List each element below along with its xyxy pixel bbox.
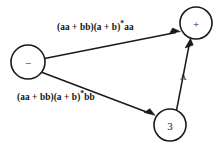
node-minus[interactable]: − [11,45,45,79]
node-minus-label: − [25,57,31,69]
edge-label-minus-to-plus: (aa + bb)(a + b)*aa [57,22,134,32]
edge-label-three-to-plus: Λ [180,72,187,82]
node-plus-label: + [193,18,199,30]
edge-label-minus-to-plus-expr: (aa + bb)(a + b) [57,22,120,32]
edge-label-minus-to-plus-suffix: aa [124,22,134,32]
node-three-label: 3 [167,120,173,132]
edge-minus-to-plus-arrowhead [170,28,181,34]
edge-label-minus-to-three: (aa + bb)(a + b)*bb [17,92,95,102]
edge-three-to-plus-arrowhead [185,39,193,49]
edge-label-minus-to-three-expr: (aa + bb)(a + b) [17,92,80,102]
node-plus[interactable]: + [180,7,212,39]
diagram-canvas: − + 3 (aa + bb)(a + b)*aa (aa + bb)(a + … [0,0,222,147]
edge-minus-to-plus[interactable] [45,28,181,59]
edge-label-minus-to-three-suffix: bb [84,92,95,102]
edge-minus-to-three-arrowhead [144,109,155,116]
node-three[interactable]: 3 [154,109,186,141]
edge-minus-to-plus-line [45,33,177,59]
